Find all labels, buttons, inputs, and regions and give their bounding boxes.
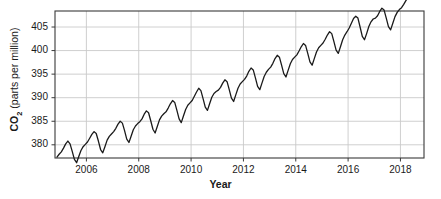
x-tick-label: 2010: [171, 164, 211, 175]
y-axis-title-prefix: CO: [8, 116, 20, 132]
y-tick-label: 395: [22, 68, 48, 79]
y-tick-label: 380: [22, 138, 48, 149]
y-tick-label: 400: [22, 44, 48, 55]
x-tick-label: 2016: [328, 164, 368, 175]
y-axis-title-unit: (parts per million): [8, 28, 20, 112]
y-tick-label: 385: [22, 115, 48, 126]
x-tick-label: 2012: [223, 164, 263, 175]
x-tick-label: 2008: [119, 164, 159, 175]
x-tick-label: 2014: [276, 164, 316, 175]
x-tick-label: 2018: [380, 164, 420, 175]
co2-series-line: [57, 0, 410, 163]
y-axis-title-subscript: 2: [15, 112, 24, 116]
co2-line-chart: 380385390395400405 200620082010201220142…: [0, 0, 441, 199]
x-tick-label: 2006: [66, 164, 106, 175]
y-tick-label: 390: [22, 91, 48, 102]
x-axis-title: Year: [0, 178, 441, 190]
y-tick-label: 405: [22, 21, 48, 32]
y-axis-title: CO2 (parts per million): [8, 10, 23, 150]
